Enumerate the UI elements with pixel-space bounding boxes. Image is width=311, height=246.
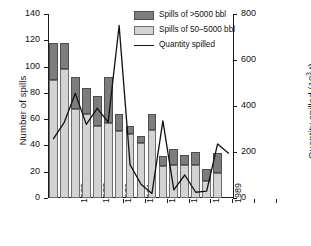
x-tickmark-1989	[276, 199, 277, 203]
y-tickmark-right-600	[233, 60, 237, 61]
bar-1986	[191, 152, 200, 198]
y-tick-right-200: 200	[241, 146, 271, 156]
spills-chart-figure: Number of spills Quantity spilled (103 t…	[0, 0, 311, 246]
bar-segment-low-1975	[71, 109, 80, 198]
y-axis-title-right-exponent: 3	[305, 72, 311, 76]
bar-segment-high-1987	[202, 169, 211, 181]
legend-swatch-dark-icon	[134, 11, 154, 20]
bar-segment-high-1975	[71, 77, 80, 109]
y-tickmark-right-200	[233, 152, 237, 153]
x-tickmark-1987	[254, 199, 255, 203]
bar-1987	[202, 169, 211, 198]
x-tickmark-1975	[123, 199, 124, 203]
legend-item-high: Spills of >5000 bbl	[134, 9, 235, 22]
bar-segment-low-1984	[169, 165, 178, 198]
legend-line-icon	[134, 41, 154, 50]
y-tick-left-140: 140	[14, 8, 40, 18]
y-axis-title-right-tail: t)	[306, 63, 311, 72]
bar-segment-low-1980	[126, 134, 135, 198]
x-tick-1989: 1989	[233, 183, 243, 203]
bar-segment-low-1986	[191, 165, 200, 198]
bar-1982	[148, 114, 157, 198]
x-tickmark-1977	[145, 199, 146, 203]
legend-label-low: Spills of 50–5000 bbl	[159, 26, 235, 34]
bar-segment-high-1980	[126, 126, 135, 134]
y-tickmark-left-60	[44, 119, 48, 120]
bar-segment-low-1976	[82, 114, 91, 198]
x-tickmark-1979	[167, 199, 168, 203]
bar-segment-high-1978	[104, 77, 113, 123]
bar-1974	[60, 43, 69, 198]
bar-segment-low-1974	[60, 69, 69, 198]
bar-segment-high-1973	[49, 43, 58, 80]
y-tick-left-20: 20	[14, 166, 40, 176]
bar-1975	[71, 77, 80, 198]
bar-segment-high-1981	[137, 136, 146, 143]
y-tickmark-left-0	[44, 198, 48, 199]
legend-item-low: Spills of 50–5000 bbl	[134, 24, 235, 37]
bar-segment-high-1983	[159, 156, 168, 167]
bar-segment-low-1985	[180, 165, 189, 198]
y-tickmark-left-80	[44, 93, 48, 94]
y-tick-left-120: 120	[14, 34, 40, 44]
bar-1979	[115, 114, 124, 198]
bar-segment-high-1974	[60, 43, 69, 69]
legend-label-high: Spills of >5000 bbl	[159, 11, 226, 19]
bar-segment-high-1977	[93, 96, 102, 126]
bar-segment-low-1983	[159, 166, 168, 198]
bar-segment-high-1979	[115, 114, 124, 131]
bar-1988	[213, 153, 222, 198]
bar-segment-low-1987	[202, 181, 211, 198]
bar-1985	[180, 155, 189, 198]
bar-segment-high-1988	[213, 153, 222, 173]
y-tick-right-400: 400	[241, 100, 271, 110]
bar-1976	[82, 88, 91, 198]
bar-1984	[169, 149, 178, 198]
bar-segment-high-1986	[191, 152, 200, 165]
y-tickmark-left-40	[44, 145, 48, 146]
y-tick-right-600: 600	[241, 54, 271, 64]
y-tick-right-0: 0	[241, 192, 271, 202]
bar-1983	[159, 156, 168, 198]
bar-1978	[104, 77, 113, 198]
y-axis-title-right: Quantity spilled (103 t)	[305, 36, 311, 186]
legend-swatch-light-icon	[134, 26, 154, 35]
y-tickmark-right-400	[233, 106, 237, 107]
y-tick-left-80: 80	[14, 87, 40, 97]
y-tick-right-800: 800	[241, 8, 271, 18]
chart-legend: Spills of >5000 bbl Spills of 50–5000 bb…	[134, 9, 235, 54]
bar-segment-low-1981	[137, 143, 146, 198]
legend-item-line: Quantity spilled	[134, 39, 235, 52]
bar-1973	[49, 43, 58, 198]
bar-segment-low-1973	[49, 80, 58, 198]
bar-1981	[137, 136, 146, 198]
bar-1977	[93, 96, 102, 199]
bar-segment-high-1976	[82, 88, 91, 114]
bar-segment-low-1988	[213, 173, 222, 198]
y-tickmark-right-0	[233, 198, 237, 199]
y-tickmark-left-120	[44, 40, 48, 41]
bar-segment-high-1985	[180, 155, 189, 166]
y-tickmark-left-100	[44, 67, 48, 68]
bar-1980	[126, 126, 135, 198]
bar-segment-high-1984	[169, 149, 178, 165]
y-axis-title-right-main: Quantity spilled (10	[306, 76, 311, 159]
y-tickmark-left-20	[44, 172, 48, 173]
bar-segment-low-1979	[115, 131, 124, 198]
y-tick-left-0: 0	[14, 192, 40, 202]
x-tickmark-1983	[210, 199, 211, 203]
y-tick-left-100: 100	[14, 61, 40, 71]
bar-segment-low-1982	[148, 130, 157, 198]
y-tick-left-40: 40	[14, 139, 40, 149]
bar-segment-low-1978	[104, 123, 113, 198]
x-tickmark-1981	[189, 199, 190, 203]
x-tickmark-1985	[232, 199, 233, 203]
legend-label-line: Quantity spilled	[159, 41, 215, 49]
bar-segment-high-1982	[148, 114, 157, 130]
y-tickmark-left-140	[44, 14, 48, 15]
y-tick-left-60: 60	[14, 113, 40, 123]
bar-segment-low-1977	[93, 126, 102, 198]
